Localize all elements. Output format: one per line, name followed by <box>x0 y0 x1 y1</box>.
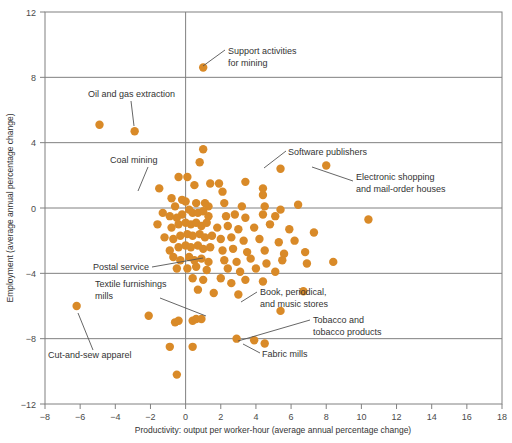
annotation-support-activities-for-mining: for mining <box>228 58 268 68</box>
x-tick-label: −2 <box>145 412 155 422</box>
data-point <box>167 194 175 202</box>
data-point <box>278 256 286 264</box>
chart-canvas: −8−6−4−2024681012141618 −12−8−404812 Sup… <box>0 0 512 443</box>
data-point <box>213 223 221 231</box>
data-point <box>218 246 226 254</box>
data-point <box>203 219 211 227</box>
annotation-oil-and-gas-extraction: Oil and gas extraction <box>88 89 175 99</box>
data-point <box>174 317 182 325</box>
y-tick-label: 12 <box>26 8 36 18</box>
data-point <box>227 233 235 241</box>
y-tick-label: −12 <box>21 400 36 410</box>
y-tick-label: 0 <box>31 204 36 214</box>
data-point <box>169 235 177 243</box>
y-axis-title: Employment (average annual percentage ch… <box>5 113 15 302</box>
data-point <box>250 223 258 231</box>
data-point <box>231 210 239 218</box>
annotation-coal-mining: Coal mining <box>110 155 158 165</box>
annotation-postal-service: Postal service <box>93 262 149 272</box>
data-point <box>276 205 284 213</box>
data-point <box>160 233 168 241</box>
data-point <box>173 264 181 272</box>
data-point <box>208 232 216 240</box>
annotation-tobacco-and-tobacco-products: Tobacco and <box>313 315 364 325</box>
data-point <box>203 266 211 274</box>
data-point <box>199 276 207 284</box>
data-point <box>220 199 228 207</box>
annotation-textile-furnishings-mills: mills <box>95 291 113 301</box>
x-tick-label: 14 <box>427 412 437 422</box>
data-point <box>218 187 226 195</box>
data-point <box>206 179 214 187</box>
data-point <box>155 184 163 192</box>
data-point <box>187 243 195 251</box>
data-point <box>238 202 246 210</box>
data-point <box>199 245 207 253</box>
scatter-chart: −8−6−4−2024681012141618 −12−8−404812 Sup… <box>0 0 512 443</box>
data-point <box>192 199 200 207</box>
data-point <box>204 258 212 266</box>
data-point <box>195 158 203 166</box>
data-point <box>262 259 270 267</box>
data-point <box>201 233 209 241</box>
data-point <box>159 209 167 217</box>
data-point <box>271 212 279 220</box>
x-tick-label: 6 <box>289 412 294 422</box>
x-axis-title: Productivity: output per worker-hour (av… <box>135 425 412 435</box>
data-point <box>153 220 161 228</box>
data-point <box>246 254 254 262</box>
x-tick-label: −6 <box>75 412 85 422</box>
data-point <box>188 343 196 351</box>
data-point <box>224 264 232 272</box>
data-point <box>276 165 284 173</box>
data-point <box>183 264 191 272</box>
data-point <box>229 245 237 253</box>
data-point <box>174 173 182 181</box>
data-point <box>271 268 279 276</box>
data-point <box>285 225 293 233</box>
annotation-support-activities-for-mining: Support activities <box>228 46 297 56</box>
data-point <box>259 210 267 218</box>
data-point <box>232 334 240 342</box>
annotation-software-publishers: Software publishers <box>288 147 368 157</box>
data-point <box>194 285 202 293</box>
x-tick-label: 8 <box>324 412 329 422</box>
x-tick-label: 2 <box>218 412 223 422</box>
y-tick-label: −8 <box>26 334 36 344</box>
data-point <box>145 312 153 320</box>
data-point <box>259 191 267 199</box>
data-point <box>181 197 189 205</box>
data-point <box>294 201 302 209</box>
data-point <box>199 145 207 153</box>
data-point <box>199 63 207 71</box>
data-point <box>167 223 175 231</box>
data-point <box>188 232 196 240</box>
data-point <box>72 302 80 310</box>
data-point <box>215 179 223 187</box>
data-point <box>241 276 249 284</box>
x-tick-label: 10 <box>356 412 366 422</box>
data-point <box>183 173 191 181</box>
data-point <box>275 238 283 246</box>
data-point <box>95 121 103 129</box>
data-point <box>290 236 298 244</box>
annotation-electronic-shopping-and-mail-order-houses: Electronic shopping <box>356 172 435 182</box>
annotation-fabric-mills: Fabric mills <box>262 349 308 359</box>
data-point <box>255 235 263 243</box>
y-tick-label: −4 <box>26 269 36 279</box>
data-point <box>227 279 235 287</box>
data-point <box>206 243 214 251</box>
data-point <box>261 202 269 210</box>
annotation-electronic-shopping-and-mail-order-houses: and mail-order houses <box>356 184 446 194</box>
annotation-book-periodical-and-music-stores: and music stores <box>260 299 329 309</box>
data-point <box>188 274 196 282</box>
data-point <box>234 225 242 233</box>
x-tick-label: 16 <box>462 412 472 422</box>
data-point <box>239 236 247 244</box>
x-tick-label: −4 <box>110 412 120 422</box>
data-point <box>232 258 240 266</box>
data-point <box>234 290 242 298</box>
data-point <box>169 253 177 261</box>
y-tick-label: 8 <box>31 73 36 83</box>
annotation-book-periodical-and-music-stores: Book, periodical, <box>260 287 327 297</box>
